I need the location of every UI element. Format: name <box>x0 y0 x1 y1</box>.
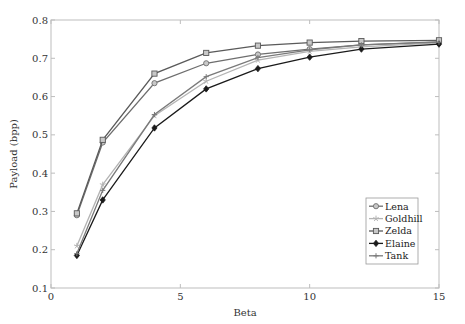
legend-label: Lena <box>385 201 409 212</box>
line-chart: 0.10.20.30.40.50.60.70.8 051015 Beta Pay… <box>0 0 465 324</box>
legend: LenaGoldhillZeldaElaineTank <box>366 198 423 264</box>
series-zelda <box>74 38 441 216</box>
square-marker <box>204 50 209 55</box>
x-axis-title: Beta <box>233 307 256 318</box>
square-marker <box>255 43 260 48</box>
circle-marker <box>204 61 209 66</box>
x-tick-label: 15 <box>433 291 446 302</box>
y-tick-label: 0.1 <box>32 283 48 294</box>
legend-label: Goldhill <box>385 213 423 224</box>
y-tick-label: 0.7 <box>32 53 48 64</box>
diamond-marker <box>307 54 312 60</box>
square-marker <box>373 228 378 233</box>
diamond-marker <box>255 65 260 71</box>
x-tick-label: 0 <box>48 291 54 302</box>
square-marker <box>152 71 157 76</box>
legend-label: Elaine <box>385 238 416 249</box>
y-tick-label: 0.4 <box>32 168 48 179</box>
y-tick-label: 0.3 <box>32 206 48 217</box>
y-tick-label: 0.5 <box>32 129 48 140</box>
square-marker <box>74 211 79 216</box>
legend-label: Tank <box>385 250 408 261</box>
x-tick-label: 10 <box>303 291 316 302</box>
square-marker <box>307 40 312 45</box>
legend-label: Zelda <box>385 225 412 236</box>
y-axis-title: Payload (bpp) <box>8 119 19 189</box>
y-tick-label: 0.6 <box>32 91 48 102</box>
square-marker <box>100 137 105 142</box>
diamond-marker <box>204 86 209 92</box>
circle-marker <box>152 81 157 86</box>
y-tick-label: 0.8 <box>32 15 48 26</box>
circle-marker <box>373 204 378 209</box>
x-tick-label: 5 <box>177 291 183 302</box>
y-tick-label: 0.2 <box>32 244 48 255</box>
